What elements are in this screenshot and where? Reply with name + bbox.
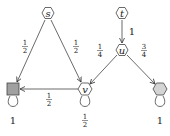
- svg-text:v: v: [82, 84, 88, 95]
- label-v-square: 1 2: [46, 92, 52, 108]
- label-t-u: 1: [129, 26, 135, 37]
- svg-text:2: 2: [74, 47, 78, 55]
- markov-chain-diagram: s t u v 1 2 1 2 1 1 4 3 4 1 2: [0, 0, 170, 136]
- label-loop-v: 1 2: [82, 113, 88, 129]
- label-loop-square: 1: [10, 115, 16, 126]
- svg-text:2: 2: [83, 121, 87, 129]
- node-right-absorbing: [153, 83, 167, 95]
- edge-s-to-square: [17, 20, 45, 82]
- svg-text:1: 1: [74, 39, 78, 47]
- label-s-square: 1 2: [22, 39, 28, 55]
- node-v: v: [78, 83, 92, 95]
- edge-u-to-right: [127, 55, 155, 84]
- loop-right: [155, 96, 165, 107]
- svg-text:u: u: [119, 45, 125, 56]
- loop-v: [80, 96, 90, 107]
- label-s-v: 1 2: [73, 39, 79, 55]
- loop-square: [8, 96, 18, 107]
- svg-text:2: 2: [23, 47, 27, 55]
- svg-text:4: 4: [98, 51, 103, 59]
- svg-text:1: 1: [47, 92, 51, 100]
- svg-text:1: 1: [23, 39, 27, 47]
- svg-text:4: 4: [142, 51, 147, 59]
- svg-text:1: 1: [83, 113, 87, 121]
- label-u-right: 3 4: [141, 43, 147, 59]
- node-square-absorbing: [7, 83, 19, 95]
- svg-text:1: 1: [98, 43, 102, 51]
- node-s: s: [42, 8, 54, 19]
- svg-text:s: s: [45, 8, 50, 19]
- node-t: t: [116, 8, 128, 19]
- svg-text:2: 2: [47, 100, 51, 108]
- edge-u-to-v: [90, 55, 117, 84]
- label-loop-right: 1: [157, 115, 163, 126]
- node-u: u: [116, 45, 128, 56]
- label-u-v: 1 4: [97, 43, 103, 59]
- svg-text:3: 3: [142, 43, 146, 51]
